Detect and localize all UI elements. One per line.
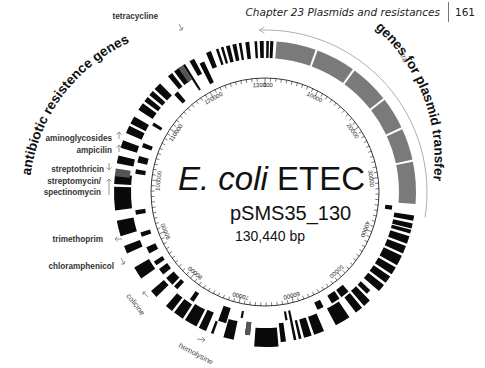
gene-block [232,44,239,61]
tick-mark [246,80,247,83]
direction-arrow-icon [107,163,112,170]
tick-mark [346,114,349,116]
gene-block [142,143,153,151]
gene-block [284,311,288,320]
tick-mark [322,287,324,290]
tick-mark [175,260,178,262]
tick-label: 30000 [367,170,375,188]
tick-mark [296,83,297,86]
direction-arrow-icon [115,237,122,242]
tick-mark [302,84,303,87]
tick-mark [286,80,287,83]
gene-block [270,41,274,58]
tick-mark [308,294,309,297]
tick-mark [282,301,283,304]
gene-block [239,43,244,60]
gene-block [260,41,264,58]
gene-block [166,271,179,284]
tick-mark [364,141,367,143]
tick-mark [373,167,376,168]
gene-block [385,205,392,210]
gene-block-gray [245,322,251,335]
tick-mark [192,104,194,107]
tick-label: 120000 [203,90,224,105]
tick-mark [158,153,161,154]
gene-block [152,123,162,131]
gene-block [288,310,296,340]
resistance-label: ampicilin [77,146,113,155]
tick-mark [359,250,362,252]
direction-arrow-icon [117,145,122,152]
tick-mark [361,136,364,138]
direction-arrow-icon [179,24,183,30]
gene-block [314,300,323,310]
tick-mark [366,146,369,147]
resistance-label: trimethoprim [53,235,104,244]
direction-arrow-icon [121,258,125,264]
direction-arrow-icon [117,132,122,139]
tick-mark [188,108,190,111]
tick-mark [325,97,327,100]
tick-mark [373,215,376,216]
gene-block [327,291,339,303]
plasmid-size: 130,440 bp [235,228,305,244]
tick-mark [154,217,157,218]
tick-mark [183,268,186,270]
gene-block [327,301,349,325]
gene-block [211,321,218,334]
tick-mark [334,103,336,106]
tick-mark [374,210,377,211]
tick-mark [350,263,353,265]
tick-mark [241,81,242,84]
antibiotic-resistance-group-label: antibiotic resistence genes [19,31,131,176]
gene-block [266,41,269,58]
tick-mark [196,101,198,104]
tra-gene-block [371,100,401,135]
plasmid-map: 1100002000030000400005000060000700008000… [0,0,485,368]
tick-mark [208,288,210,291]
tick-label: 110000 [168,122,184,142]
tick-mark [184,112,186,114]
plasmid-name: pSMS35_130 [230,202,351,225]
tick-label: 80000 [186,265,203,281]
gene-block [140,229,151,236]
tick-mark [235,82,236,85]
gene-block [124,240,143,253]
tick-mark [155,164,158,165]
tick-mark [349,118,352,120]
gene-block [121,140,139,152]
tick-label: 50000 [328,264,345,280]
tick-mark [281,79,282,82]
tick-mark [372,220,375,221]
resistance-label: tetracycline [112,12,158,21]
gene-block [254,327,278,347]
gene-block [279,323,286,342]
tick-mark [223,295,224,298]
tick-mark [218,293,219,296]
gene-block [336,285,348,297]
resistance-label: streptomycin/ [47,177,101,186]
tick-label: 100000 [155,170,163,191]
tick-mark [228,297,229,300]
tick-mark [199,282,201,285]
tick-mark [169,252,172,254]
gene-block [308,314,324,335]
direction-arrow-icon [197,337,205,342]
tick-mark [291,81,292,84]
tick-label: 20000 [346,122,361,140]
tick-mark [204,285,206,288]
tick-mark [362,245,365,247]
tick-mark [164,242,167,244]
gene-block [174,92,185,104]
tick-mark [370,156,373,157]
tick-mark [312,292,314,295]
gene-block-gray [115,168,131,177]
tick-mark [156,159,159,160]
resistance-label: chloramphenicol [48,262,114,271]
gene-block [151,280,169,297]
organism-title: E. coli ETEC [178,160,365,197]
tick-mark [179,264,182,266]
tick-mark [162,143,165,144]
gene-block [135,209,146,215]
tra-gene-block [345,70,384,108]
